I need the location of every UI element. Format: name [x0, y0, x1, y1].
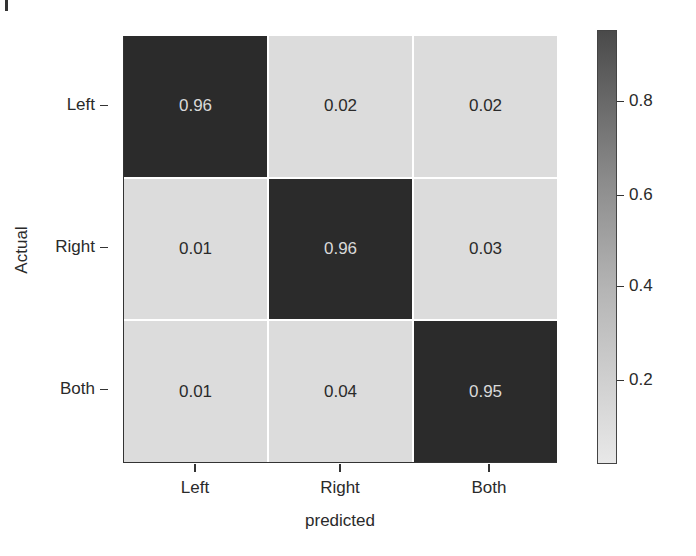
tick-mark: [100, 247, 108, 249]
cell-left-left: 0.96: [124, 36, 267, 177]
colorbar-tick-label: 0.8: [629, 91, 653, 110]
y-tick-label: Left: [67, 95, 95, 114]
cell-right-left: 0.01: [124, 179, 267, 320]
tick-mark: [100, 389, 108, 391]
colorbar-tick-label: 0.2: [629, 370, 653, 389]
cell-left-both: 0.02: [414, 36, 557, 177]
tick-mark: [488, 464, 490, 472]
x-tick-right: Right: [290, 464, 390, 498]
x-tick-label: Right: [320, 478, 360, 497]
tick-mark: [617, 380, 624, 382]
panel-corner-mark: [5, 0, 8, 11]
tick-mark: [339, 464, 341, 472]
tick-mark: [617, 286, 624, 288]
tick-mark: [617, 101, 624, 103]
x-tick-left: Left: [145, 464, 245, 498]
x-tick-both: Both: [439, 464, 539, 498]
tick-mark: [194, 464, 196, 472]
colorbar-tick-0-2: 0.2: [617, 370, 653, 390]
colorbar-tick-label: 0.6: [629, 185, 653, 204]
x-tick-label: Left: [181, 478, 209, 497]
colorbar-tick-0-6: 0.6: [617, 185, 653, 205]
tick-mark: [617, 195, 624, 197]
y-tick-both: Both: [28, 379, 108, 399]
y-axis-label: Actual: [12, 226, 32, 273]
y-tick-left: Left: [28, 95, 108, 115]
x-axis-label: predicted: [290, 511, 390, 531]
colorbar-tick-label: 0.4: [629, 276, 653, 295]
colorbar: [597, 30, 617, 464]
colorbar-tick-0-8: 0.8: [617, 91, 653, 111]
x-tick-label: Both: [472, 478, 507, 497]
tick-mark: [100, 105, 108, 107]
cell-right-right: 0.96: [269, 179, 412, 320]
cell-both-left: 0.01: [124, 321, 267, 462]
cell-both-both: 0.95: [414, 321, 557, 462]
y-tick-label: Both: [60, 379, 95, 398]
y-tick-label: Right: [55, 237, 95, 256]
cell-right-both: 0.03: [414, 179, 557, 320]
y-tick-right: Right: [28, 237, 108, 257]
confusion-matrix-heatmap: 0.96 0.02 0.02 0.01 0.96 0.03 0.01 0.04 …: [123, 36, 557, 463]
cell-both-right: 0.04: [269, 321, 412, 462]
cell-left-right: 0.02: [269, 36, 412, 177]
colorbar-tick-0-4: 0.4: [617, 276, 653, 296]
